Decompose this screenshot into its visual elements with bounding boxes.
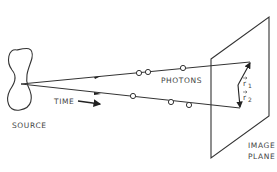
svg-text:r: r	[243, 79, 247, 88]
time-arrow-icon	[78, 101, 100, 104]
source-label: SOURCE	[12, 121, 47, 130]
svg-text:r: r	[243, 93, 247, 102]
image-plane-label-2: PLANE	[248, 152, 275, 161]
source-blob	[8, 48, 33, 110]
r2-label: r 2	[243, 91, 252, 103]
diagram-canvas: SOURCE TIME PHOTONS IMAGE PLANE r 1 r 2	[0, 0, 277, 172]
svg-text:1: 1	[248, 82, 252, 89]
photons-lower	[130, 93, 191, 107]
image-plane-label-1: IMAGE	[248, 141, 275, 150]
time-label: TIME	[53, 97, 74, 106]
image-plane	[211, 17, 269, 158]
photons-label: PHOTONS	[161, 76, 202, 85]
r1-label: r 1	[243, 77, 252, 89]
svg-text:2: 2	[248, 96, 252, 103]
vector-r2	[238, 85, 240, 107]
photon-ray-upper	[21, 62, 250, 84]
